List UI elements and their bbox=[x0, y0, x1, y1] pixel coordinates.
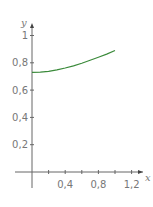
y-tick-label: 0,8 bbox=[12, 57, 28, 68]
chart: xy 0,40,81,20,20,40,60,81 bbox=[0, 0, 153, 207]
y-arrow-icon bbox=[30, 23, 34, 28]
ticks: 0,40,81,20,20,40,60,81 bbox=[12, 30, 139, 190]
y-axis-label: y bbox=[20, 17, 27, 28]
x-tick-label: 0,4 bbox=[57, 179, 73, 190]
y-tick-label: 1 bbox=[22, 30, 28, 41]
x-tick-label: 0,8 bbox=[90, 179, 106, 190]
x-arrow-icon bbox=[138, 170, 143, 174]
x-axis-label: x bbox=[145, 172, 151, 183]
y-tick-label: 0,2 bbox=[12, 139, 28, 150]
x-tick-label: 1,2 bbox=[124, 179, 140, 190]
data-curve bbox=[32, 51, 115, 73]
y-tick-label: 0,6 bbox=[12, 85, 28, 96]
y-tick-label: 0,4 bbox=[12, 112, 28, 123]
axes: xy bbox=[15, 17, 151, 188]
